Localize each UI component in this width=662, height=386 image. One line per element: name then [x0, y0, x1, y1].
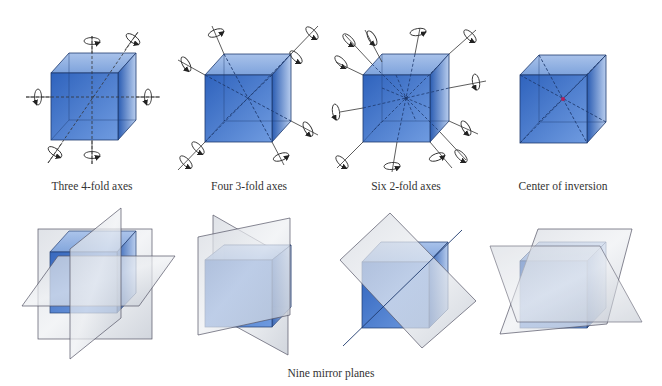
caption-mirror-planes: Nine mirror planes	[288, 367, 375, 379]
caption-four-fold-axes: Three 4-fold axes	[51, 180, 132, 192]
panel-center-of-inversion	[520, 55, 606, 143]
inversion-center-dot	[561, 97, 565, 101]
panel-four-fold-axes	[26, 32, 160, 164]
panel-three-fold-axes	[178, 25, 320, 170]
caption-center-of-inversion: Center of inversion	[519, 180, 608, 192]
symmetry-diagram	[0, 0, 662, 386]
mirror-planes-orthogonal	[22, 208, 175, 359]
mirror-planes-diagonal-vertical	[198, 215, 291, 355]
panel-two-fold-axes	[331, 27, 486, 172]
mirror-planes-tilted	[490, 229, 642, 334]
mirror-planes-diagonal-diamond	[340, 213, 476, 348]
caption-two-fold-axes: Six 2-fold axes	[371, 180, 441, 192]
caption-three-fold-axes: Four 3-fold axes	[211, 180, 287, 192]
